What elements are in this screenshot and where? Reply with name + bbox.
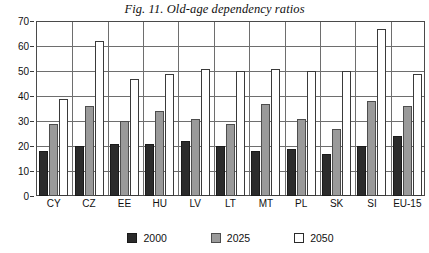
bar-group bbox=[110, 21, 139, 196]
x-tick-label-SK: SK bbox=[330, 198, 343, 209]
bar-group bbox=[251, 21, 280, 196]
bar-MT-2050 bbox=[271, 69, 280, 197]
bar-group bbox=[393, 21, 422, 196]
bar-SI-2025 bbox=[367, 101, 376, 196]
bar-group bbox=[181, 21, 210, 196]
y-tick-label: 50 bbox=[18, 66, 29, 77]
legend-label-2000: 2000 bbox=[143, 232, 166, 244]
bar-CZ-2025 bbox=[85, 106, 94, 196]
legend-swatch-icon-2000 bbox=[127, 233, 137, 243]
x-tick-label-PL: PL bbox=[295, 198, 307, 209]
bar-LT-2000 bbox=[216, 146, 225, 196]
bar-EU-15-2050 bbox=[413, 74, 422, 197]
bar-EE-2000 bbox=[110, 144, 119, 197]
y-tick-label: 0 bbox=[23, 191, 29, 202]
bar-CZ-2050 bbox=[95, 41, 104, 196]
y-tick-label: 20 bbox=[18, 141, 29, 152]
bar-CY-2000 bbox=[39, 151, 48, 196]
legend-item-2025: 2025 bbox=[211, 232, 250, 244]
y-tick-label: 30 bbox=[18, 116, 29, 127]
bar-PL-2050 bbox=[307, 71, 316, 196]
bar-group bbox=[39, 21, 68, 196]
bar-EE-2025 bbox=[120, 121, 129, 196]
x-tick-label-HU: HU bbox=[153, 198, 167, 209]
y-tick-mark bbox=[30, 21, 34, 22]
y-tick-mark bbox=[30, 146, 34, 147]
bar-group bbox=[145, 21, 174, 196]
bar-HU-2050 bbox=[165, 74, 174, 197]
bar-EU-15-2025 bbox=[403, 106, 412, 196]
chart-figure: Fig. 11. Old-age dependency ratios 01020… bbox=[0, 0, 429, 253]
legend-swatch-icon-2025 bbox=[211, 233, 221, 243]
y-tick-label: 70 bbox=[18, 16, 29, 27]
bar-group bbox=[216, 21, 245, 196]
bar-SI-2050 bbox=[377, 29, 386, 197]
y-tick-mark bbox=[30, 46, 34, 47]
bar-LT-2050 bbox=[236, 71, 245, 196]
y-tick-mark bbox=[30, 71, 34, 72]
legend-item-2050: 2050 bbox=[294, 232, 333, 244]
bar-EE-2050 bbox=[130, 79, 139, 197]
bar-CY-2025 bbox=[49, 124, 58, 197]
x-tick-label-LT: LT bbox=[225, 198, 236, 209]
bar-PL-2025 bbox=[297, 119, 306, 197]
y-tick-mark bbox=[30, 96, 34, 97]
x-tick-label-EU-15: EU-15 bbox=[393, 198, 421, 209]
x-tick-label-EE: EE bbox=[118, 198, 131, 209]
bar-CY-2050 bbox=[59, 99, 68, 197]
x-tick-label-MT: MT bbox=[259, 198, 273, 209]
bars-layer bbox=[36, 21, 425, 196]
x-tick-label-CY: CY bbox=[47, 198, 61, 209]
bar-LV-2000 bbox=[181, 141, 190, 196]
bar-SK-2000 bbox=[322, 154, 331, 197]
bar-LV-2025 bbox=[191, 119, 200, 197]
bar-HU-2025 bbox=[155, 111, 164, 196]
y-tick-mark bbox=[30, 196, 34, 197]
bar-group bbox=[357, 21, 386, 196]
x-axis: CYCZEEHULVLTMTPLSKSIEU-15 bbox=[36, 198, 425, 214]
y-tick-label: 40 bbox=[18, 91, 29, 102]
bar-HU-2000 bbox=[145, 144, 154, 197]
bar-group bbox=[287, 21, 316, 196]
y-tick-mark bbox=[30, 171, 34, 172]
legend-label-2025: 2025 bbox=[227, 232, 250, 244]
y-tick-label: 60 bbox=[18, 41, 29, 52]
y-axis: 010203040506070 bbox=[0, 21, 34, 196]
bar-MT-2025 bbox=[261, 104, 270, 197]
legend-item-2000: 2000 bbox=[127, 232, 166, 244]
bar-LV-2050 bbox=[201, 69, 210, 197]
legend-swatch-icon-2050 bbox=[294, 233, 304, 243]
bar-SK-2025 bbox=[332, 129, 341, 197]
bar-CZ-2000 bbox=[75, 146, 84, 196]
chart-legend: 2000 2025 2050 bbox=[36, 229, 425, 247]
x-tick-label-CZ: CZ bbox=[82, 198, 95, 209]
bar-LT-2025 bbox=[226, 124, 235, 197]
bar-MT-2000 bbox=[251, 151, 260, 196]
y-tick-mark bbox=[30, 121, 34, 122]
bar-PL-2000 bbox=[287, 149, 296, 197]
chart-title: Fig. 11. Old-age dependency ratios bbox=[0, 2, 429, 17]
y-tick-label: 10 bbox=[18, 166, 29, 177]
bar-group bbox=[322, 21, 351, 196]
x-tick-label-SI: SI bbox=[367, 198, 376, 209]
bar-SI-2000 bbox=[357, 146, 366, 196]
bar-group bbox=[75, 21, 104, 196]
bar-SK-2050 bbox=[342, 71, 351, 196]
legend-label-2050: 2050 bbox=[310, 232, 333, 244]
x-tick-label-LV: LV bbox=[189, 198, 201, 209]
bar-EU-15-2000 bbox=[393, 136, 402, 196]
